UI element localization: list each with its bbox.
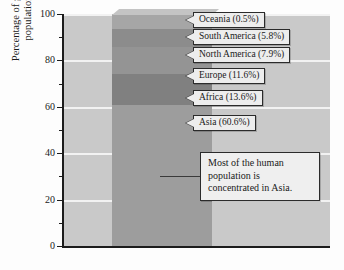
note-leader-line [160, 176, 204, 177]
y-tick-minor [59, 223, 64, 224]
x-axis-line [62, 246, 330, 248]
pointer-icon [186, 94, 194, 102]
pointer-icon [186, 51, 194, 59]
callout-north-america: North America (7.9%) [193, 47, 290, 63]
y-tick-major [57, 14, 64, 15]
pointer-icon [186, 16, 194, 24]
callout-asia-text: Asia (60.6%) [199, 117, 250, 127]
callout-south-america: South America (5.8%) [193, 29, 290, 45]
callout-africa: Africa (13.6%) [193, 90, 263, 106]
y-tick-major [57, 200, 64, 201]
pointer-icon [186, 33, 194, 41]
callout-europe-text: Europe (11.6%) [199, 70, 259, 80]
callout-south-america-text: South America (5.8%) [199, 31, 284, 41]
y-tick-label: 100 [40, 9, 55, 19]
callout-europe: Europe (11.6%) [193, 68, 265, 84]
callout-note-text: Most of the human population is concentr… [208, 157, 292, 193]
y-tick-label: 0 [50, 241, 55, 251]
y-tick-label: 40 [45, 148, 55, 158]
callout-oceania-text: Oceania (0.5%) [199, 14, 259, 24]
pointer-icon [186, 119, 194, 127]
y-tick-label: 60 [45, 102, 55, 112]
y-tick-label: 20 [45, 195, 55, 205]
pointer-icon [186, 72, 194, 80]
y-axis-title: Percentage of global population [10, 0, 34, 78]
callout-asia: Asia (60.6%) [193, 115, 256, 131]
callout-north-america-text: North America (7.9%) [199, 49, 284, 59]
y-tick-major [57, 153, 64, 154]
callout-africa-text: Africa (13.6%) [199, 92, 257, 102]
callout-note: Most of the human population is concentr… [200, 152, 320, 201]
y-tick-minor [59, 130, 64, 131]
y-tick-minor [59, 37, 64, 38]
y-tick-major [57, 107, 64, 108]
y-tick-label: 80 [45, 55, 55, 65]
y-tick-minor [59, 176, 64, 177]
y-tick-major [57, 60, 64, 61]
stacked-bar-chart: Percentage of global population 10080604… [0, 0, 344, 270]
callout-oceania: Oceania (0.5%) [193, 12, 265, 28]
y-tick-minor [59, 84, 64, 85]
